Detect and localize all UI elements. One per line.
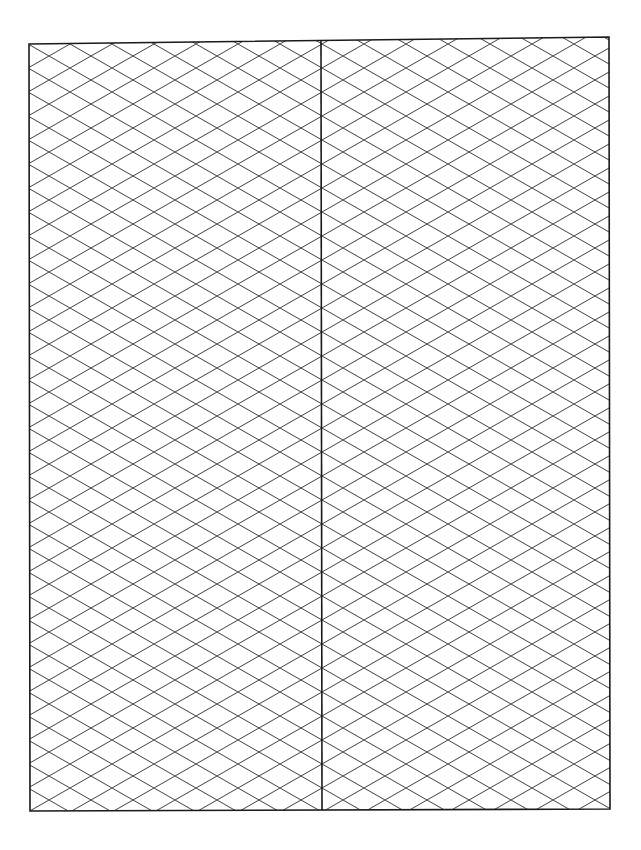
center-divider [321, 40, 322, 810]
isometric-grid-sheet [0, 0, 641, 850]
left-panel [20, 30, 322, 820]
right-panel [322, 30, 622, 820]
